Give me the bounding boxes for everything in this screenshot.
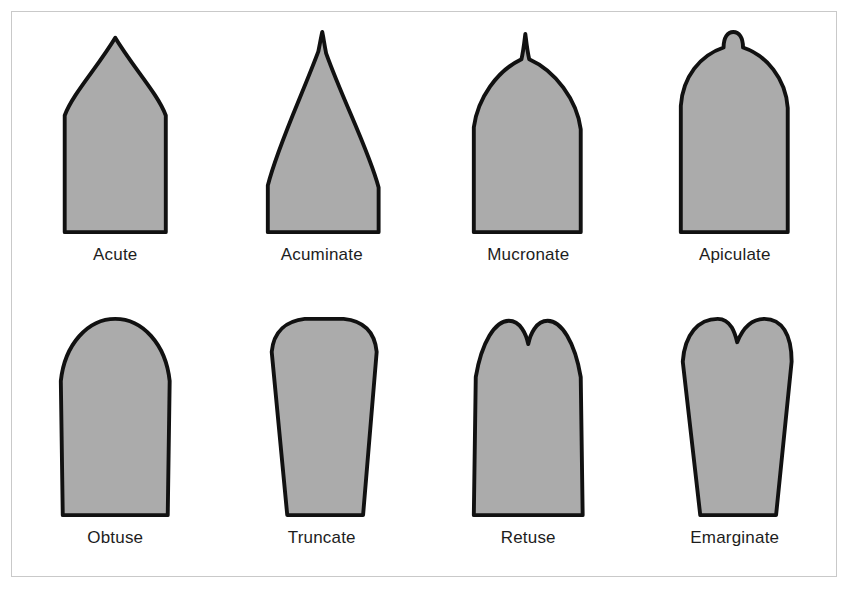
leaf-apex-label-emarginate: Emarginate — [632, 528, 839, 548]
leaf-apex-cell-acuminate: Acuminate — [219, 12, 426, 295]
leaf-apex-cell-truncate: Truncate — [219, 295, 426, 578]
leaf-apex-label-acuminate: Acuminate — [219, 245, 426, 265]
leaf-apex-cell-mucronate: Mucronate — [425, 12, 632, 295]
leaf-shape-mucronate — [425, 30, 632, 238]
leaf-shape-retuse — [425, 313, 632, 521]
leaf-apex-cell-obtuse: Obtuse — [12, 295, 219, 578]
leaf-shape-apiculate — [632, 30, 839, 238]
leaf-apex-label-truncate: Truncate — [219, 528, 426, 548]
leaf-outline-truncate — [271, 319, 376, 515]
leaf-apex-cell-apiculate: Apiculate — [632, 12, 839, 295]
leaf-shape-acute — [12, 30, 219, 238]
leaf-outline-acute — [65, 38, 166, 232]
leaf-outline-acuminate — [267, 32, 378, 232]
leaf-apex-label-retuse: Retuse — [425, 528, 632, 548]
leaf-apex-label-acute: Acute — [12, 245, 219, 265]
leaf-apex-cell-emarginate: Emarginate — [632, 295, 839, 578]
leaf-outline-mucronate — [474, 34, 581, 232]
leaf-outline-emarginate — [682, 319, 791, 515]
leaf-apex-label-obtuse: Obtuse — [12, 528, 219, 548]
leaf-shape-obtuse — [12, 313, 219, 521]
leaf-apex-cell-retuse: Retuse — [425, 295, 632, 578]
leaf-shape-emarginate — [632, 313, 839, 521]
leaf-outline-retuse — [474, 321, 583, 515]
leaf-apex-label-mucronate: Mucronate — [425, 245, 632, 265]
leaf-apex-figure: AcuteAcuminateMucronateApiculateObtuseTr… — [0, 0, 850, 592]
leaf-shape-truncate — [219, 313, 426, 521]
figure-frame: AcuteAcuminateMucronateApiculateObtuseTr… — [11, 11, 837, 577]
leaf-outline-obtuse — [61, 319, 170, 515]
shape-grid: AcuteAcuminateMucronateApiculateObtuseTr… — [12, 12, 836, 576]
leaf-outline-apiculate — [680, 32, 787, 232]
leaf-apex-cell-acute: Acute — [12, 12, 219, 295]
leaf-shape-acuminate — [219, 30, 426, 238]
leaf-apex-label-apiculate: Apiculate — [632, 245, 839, 265]
